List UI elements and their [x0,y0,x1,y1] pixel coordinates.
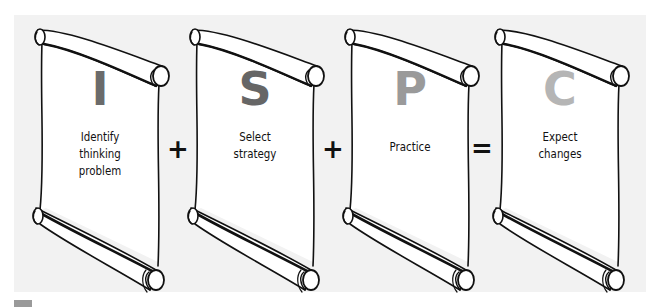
step-label-line: Practice [373,138,447,155]
scroll-step-identify: IIdentifythinkingproblem [28,0,178,307]
scroll-step-select: SSelectstrategy [183,0,333,307]
plus-operator-2: + [322,136,344,162]
step-letter: S [215,66,295,112]
step-letter: I [60,66,140,112]
scroll-step-expect: CExpectchanges [488,0,638,307]
step-label-line: Expect [523,128,597,145]
step-label: Expectchanges [523,128,597,162]
step-label: Selectstrategy [218,128,292,162]
step-label-line: thinking [63,145,137,162]
step-label: Identifythinkingproblem [63,128,137,179]
step-label-line: Select [218,128,292,145]
step-letter: P [370,66,450,112]
step-label: Practice [373,138,447,155]
equals-operator: = [471,135,493,161]
step-label-line: strategy [218,145,292,162]
step-letter: C [520,66,600,112]
plus-operator-1: + [167,136,189,162]
step-label-line: problem [63,162,137,179]
step-label-line: changes [523,145,597,162]
scroll-step-practice: PPractice [338,0,488,307]
step-label-line: Identify [63,128,137,145]
